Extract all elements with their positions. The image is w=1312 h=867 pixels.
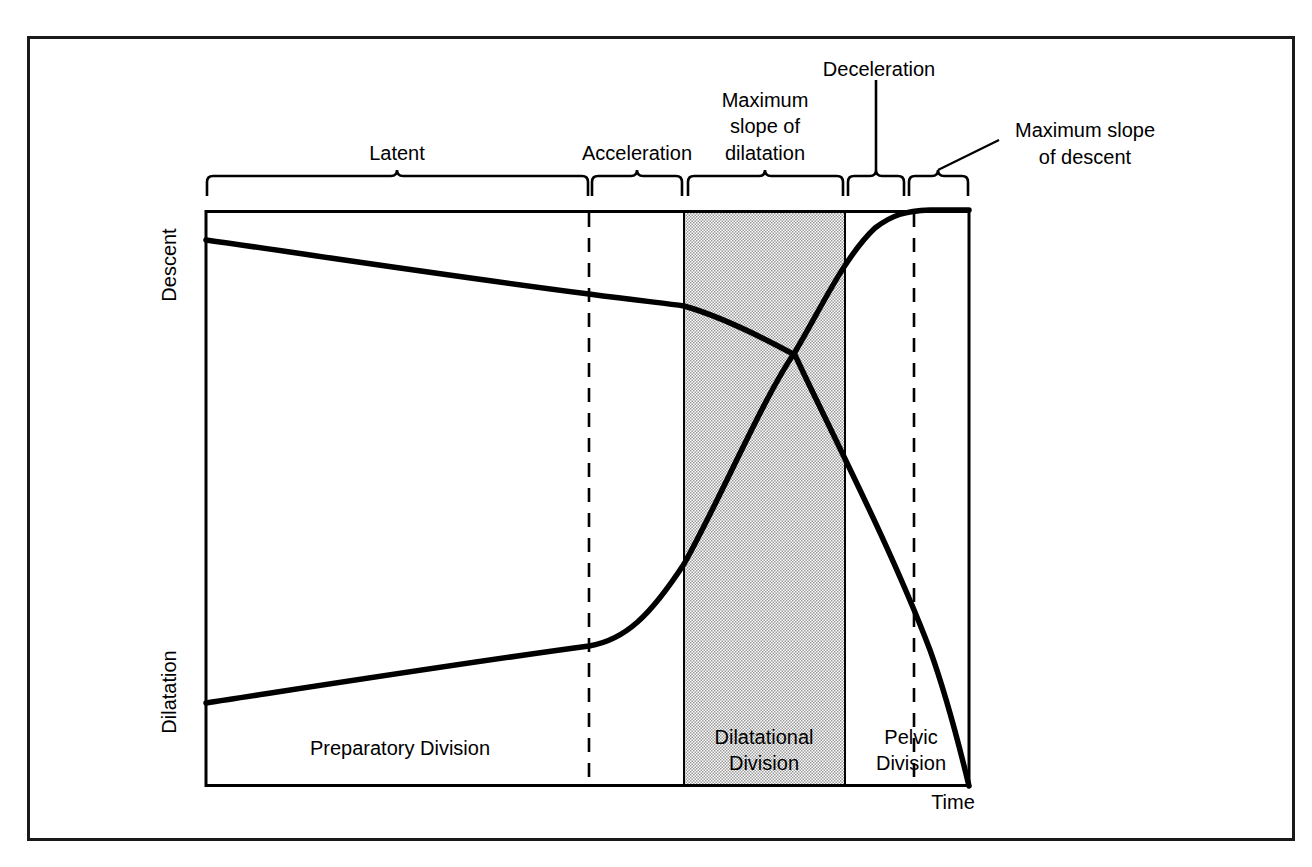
dilatational-division-shading [684, 212, 845, 785]
division-label-dilatational-line1: Dilatational [715, 726, 814, 748]
phase-label-max-slope-dilatation-line2: slope of [730, 115, 800, 137]
phase-label-latent: Latent [369, 142, 425, 164]
division-label-pelvic-line1: Pelvic [884, 726, 937, 748]
division-label-dilatational-line2: Division [729, 752, 799, 774]
y-axis-label-dilatation: Dilatation [158, 650, 180, 733]
figure-root: Latent Acceleration Maximum slope of dil… [0, 0, 1312, 867]
x-axis-label-time: Time [931, 791, 975, 813]
phase-label-max-slope-dilatation-line3: dilatation [725, 142, 805, 164]
phase-label-max-slope-descent-line1: Maximum slope [1015, 119, 1155, 141]
labor-curve-svg: Latent Acceleration Maximum slope of dil… [0, 0, 1312, 867]
phase-label-max-slope-dilatation-line1: Maximum [722, 89, 809, 111]
phase-label-acceleration: Acceleration [582, 142, 692, 164]
division-label-preparatory: Preparatory Division [310, 737, 490, 759]
phase-label-deceleration: Deceleration [823, 58, 935, 80]
division-label-pelvic-line2: Division [876, 752, 946, 774]
phase-label-max-slope-descent-line2: of descent [1039, 146, 1132, 168]
y-axis-label-descent: Descent [158, 228, 180, 302]
